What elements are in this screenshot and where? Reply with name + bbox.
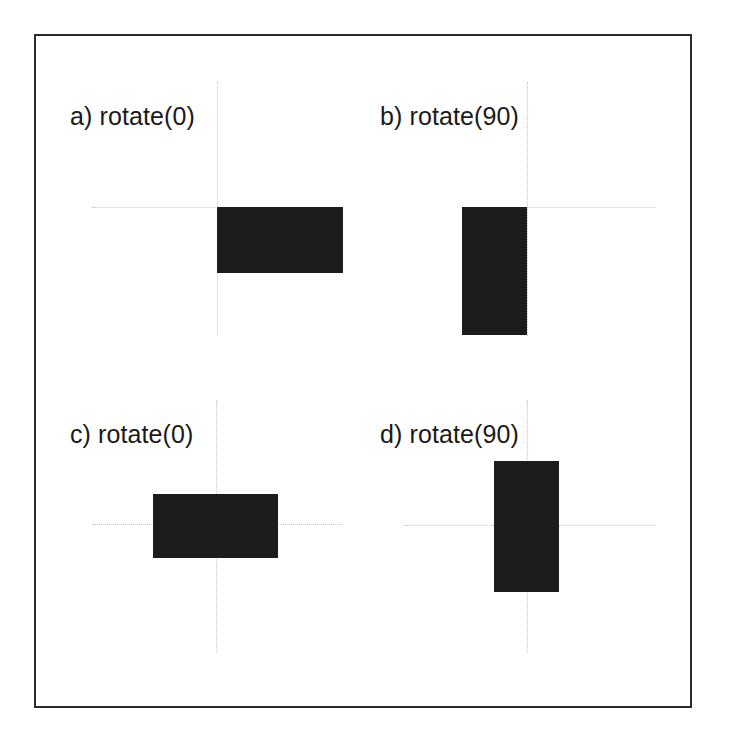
panel-d-rectangle — [494, 461, 559, 592]
panel-b-label: b) rotate(90) — [380, 104, 519, 129]
panel-a-horizontal-axis — [92, 207, 218, 208]
figure-border-frame — [34, 34, 692, 708]
panel-a-label: a) rotate(0) — [70, 104, 195, 129]
panel-d-label: d) rotate(90) — [380, 422, 519, 447]
panel-b-horizontal-axis — [526, 207, 656, 208]
panel-c-label: c) rotate(0) — [70, 422, 193, 447]
panel-b-rectangle — [462, 207, 527, 335]
panel-b-vertical-axis — [527, 82, 528, 336]
panel-a-rectangle — [217, 207, 343, 273]
figure-root: a) rotate(0) b) rotate(90) c) rotate(0) … — [0, 0, 730, 735]
panel-c-rectangle — [153, 494, 278, 558]
